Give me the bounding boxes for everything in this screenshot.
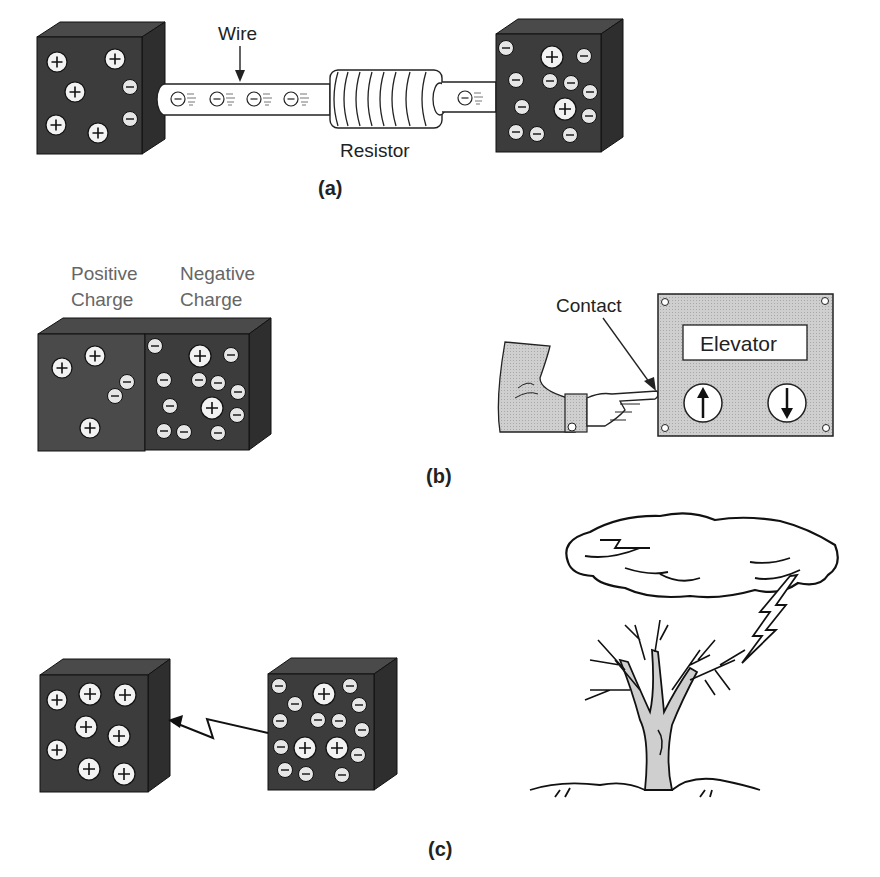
wire-label: Wire xyxy=(218,23,257,44)
negative-charged-box xyxy=(496,19,623,152)
positive-charged-box-c xyxy=(40,659,170,792)
caption-c: (c) xyxy=(428,838,452,860)
positive-charged-box xyxy=(37,22,165,154)
caption-b: (b) xyxy=(426,465,452,487)
caption-a: (a) xyxy=(318,177,342,199)
contact-label: Contact xyxy=(556,295,622,316)
elevator-up-button[interactable] xyxy=(684,384,722,422)
resistor xyxy=(330,70,447,128)
positive-charge-label-2: Charge xyxy=(71,289,133,310)
panel-a: Wire Resistor xyxy=(37,19,623,199)
negative-charged-box-c xyxy=(268,658,397,790)
panel-c: (c) xyxy=(40,513,838,860)
positive-charge-label-1: Positive xyxy=(71,263,138,284)
elevator-down-button[interactable] xyxy=(768,384,806,422)
elevator-label: Elevator xyxy=(700,332,777,355)
tree xyxy=(530,620,760,797)
split-charge-box xyxy=(38,318,271,451)
wire xyxy=(157,84,330,115)
resistor-label: Resistor xyxy=(340,140,410,161)
wire-arrow xyxy=(235,46,245,82)
contact-arrow xyxy=(603,318,656,391)
negative-charge-label-2: Charge xyxy=(180,289,242,310)
storm-cloud xyxy=(566,513,837,597)
spark-arrow xyxy=(168,715,268,738)
negative-charge-label-1: Negative xyxy=(180,263,255,284)
electricity-diagram: Wire Resistor xyxy=(0,0,880,877)
elevator-panel: Elevator xyxy=(658,294,833,436)
panel-b: Positive Charge Negative Charge xyxy=(38,263,833,487)
hand-pressing-button xyxy=(498,342,658,432)
